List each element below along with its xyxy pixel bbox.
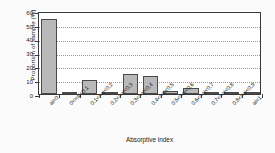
x-tick-label: ai=0 bbox=[48, 95, 60, 107]
x-tick-label: ai=1 bbox=[251, 95, 263, 107]
bar-chart-figure: Proportion of sample (%) 0102030405060 a… bbox=[0, 0, 275, 153]
x-axis-title: Absorptive index bbox=[38, 136, 261, 143]
y-tick-label: 50 bbox=[26, 24, 33, 31]
y-tick-label: 30 bbox=[26, 51, 33, 58]
y-tick-label: 60 bbox=[26, 10, 33, 17]
bar bbox=[41, 19, 56, 94]
y-tick-label: 10 bbox=[26, 79, 33, 86]
x-axis-tick-labels: ai=00<=ai<0.10.1<=ai<0.20.2<=ai<0.30.3<=… bbox=[38, 100, 261, 134]
x-tick bbox=[59, 94, 60, 98]
y-tick-label: 20 bbox=[26, 65, 33, 72]
y-tick-label: 0 bbox=[30, 93, 33, 100]
y-tick-label: 40 bbox=[26, 37, 33, 44]
x-tick bbox=[39, 94, 40, 98]
